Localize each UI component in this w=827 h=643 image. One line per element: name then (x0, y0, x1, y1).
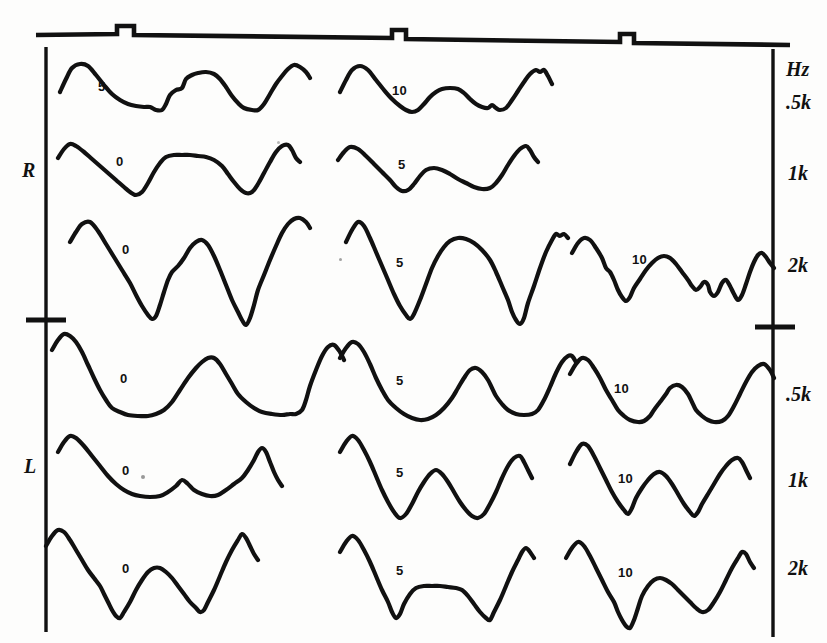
waveform-trace (340, 342, 576, 420)
intensity-level-label: 5 (396, 256, 403, 269)
waveform-trace (46, 530, 258, 618)
intensity-level-label: 10 (632, 253, 647, 266)
waveform-trace (58, 144, 300, 195)
intensity-level-label: 10 (614, 382, 629, 395)
freq-label-l-2k: 2k (788, 558, 808, 578)
freq-label-r-500: .5k (786, 92, 811, 112)
waveform-figure: R L Hz .5k 1k 2k .5k 1k 2k 5100505100510… (0, 0, 827, 643)
intensity-level-label: 5 (396, 564, 403, 577)
waveform-trace (566, 542, 754, 628)
waveform-trace (340, 536, 534, 620)
intensity-level-label: 5 (396, 374, 403, 387)
right-axis-group (755, 49, 795, 637)
waveform-trace (572, 238, 774, 301)
intensity-level-label: 0 (122, 562, 129, 575)
waveform-trace (340, 66, 552, 112)
waveform-trace (346, 222, 568, 324)
side-label-left: L (24, 456, 36, 476)
waveform-trace (58, 436, 282, 497)
axis-unit-label: Hz (786, 59, 809, 79)
intensity-level-label: 5 (98, 80, 105, 93)
intensity-level-label: 0 (120, 372, 127, 385)
waveform-trace (570, 358, 774, 422)
waveform-trace (338, 146, 538, 191)
waveform-trace (52, 334, 344, 416)
intensity-level-label: 5 (398, 158, 405, 171)
scan-speck (277, 141, 280, 144)
intensity-level-label: 0 (122, 464, 129, 477)
waveform-trace (570, 444, 750, 516)
waveform-trace (340, 436, 532, 518)
freq-label-l-1k: 1k (788, 470, 808, 490)
figure-canvas (0, 0, 827, 643)
freq-label-r-1k: 1k (788, 163, 808, 183)
intensity-level-label: 10 (618, 472, 633, 485)
side-label-right: R (22, 160, 35, 180)
calibration-bar-group (36, 26, 790, 45)
intensity-level-label: 5 (396, 466, 403, 479)
intensity-level-label: 10 (618, 566, 633, 579)
intensity-level-label: 0 (116, 155, 123, 168)
freq-label-l-500: .5k (786, 384, 811, 404)
intensity-level-label: 10 (392, 84, 407, 97)
intensity-level-label: 0 (122, 243, 129, 256)
calibration-bar (36, 26, 790, 45)
waveform-trace (70, 218, 310, 325)
scan-speck (141, 475, 145, 479)
freq-label-r-2k: 2k (788, 255, 808, 275)
scan-speck (339, 258, 342, 261)
trace-collection (46, 64, 774, 628)
